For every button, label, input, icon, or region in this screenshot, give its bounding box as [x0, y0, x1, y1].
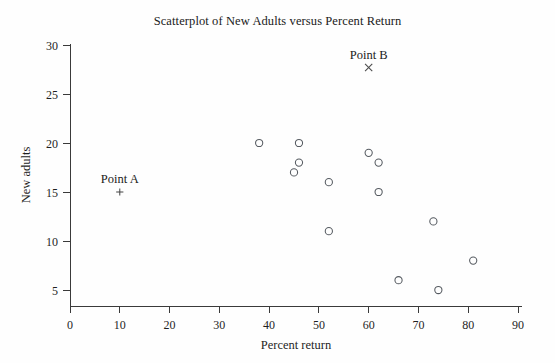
x-tick-label: 50	[313, 318, 325, 332]
x-tick-label: 30	[213, 318, 225, 332]
x-tick-label: 0	[67, 318, 73, 332]
x-tick-label: 60	[363, 318, 375, 332]
data-point-marker	[295, 159, 302, 166]
data-point-marker	[435, 286, 442, 293]
scatterplot-figure: Scatterplot of New Adults versus Percent…	[0, 0, 555, 363]
y-tick-label: 15	[46, 186, 58, 200]
x-tick-label: 70	[412, 318, 424, 332]
data-point-marker	[325, 228, 332, 235]
y-axis-title: New adults	[19, 147, 33, 204]
y-tick-label: 10	[46, 235, 58, 249]
y-tick-label: 25	[46, 88, 58, 102]
data-point-marker	[325, 179, 332, 186]
point-a-label: Point A	[101, 172, 139, 186]
y-tick-label: 30	[46, 39, 58, 53]
x-axis-title: Percent return	[261, 338, 332, 352]
annotations-group: Point APoint B	[101, 48, 388, 196]
y-axis-ticks: 51015202530	[46, 39, 70, 298]
data-point-marker	[430, 218, 437, 225]
x-tick-label: 80	[462, 318, 474, 332]
x-axis-ticks: 0102030405060708090	[67, 306, 524, 332]
data-point-marker	[256, 139, 263, 146]
data-points-group	[256, 139, 477, 293]
x-tick-label: 40	[263, 318, 275, 332]
data-point-marker	[395, 277, 402, 284]
data-point-marker	[470, 257, 477, 264]
plot-area: 51015202530 0102030405060708090 Point AP…	[0, 0, 555, 363]
data-point-marker	[290, 169, 297, 176]
data-point-marker	[365, 149, 372, 156]
data-point-marker	[375, 159, 382, 166]
x-tick-label: 10	[114, 318, 126, 332]
y-tick-label: 5	[52, 284, 58, 298]
y-tick-label: 20	[46, 137, 58, 151]
x-tick-label: 20	[164, 318, 176, 332]
x-tick-label: 90	[512, 318, 524, 332]
data-point-marker	[375, 188, 382, 195]
point-b-label: Point B	[350, 48, 388, 62]
data-point-marker	[295, 139, 302, 146]
